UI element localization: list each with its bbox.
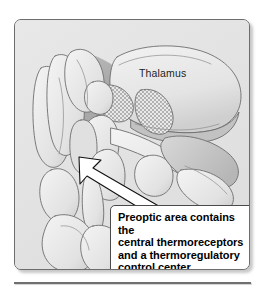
callout-text: Preoptic area contains the central therm… bbox=[118, 211, 250, 270]
figure-frame: Thalamus Preoptic area contains the cent… bbox=[14, 19, 250, 270]
callout-box: Preoptic area contains the central therm… bbox=[110, 205, 250, 270]
nucleus-upper bbox=[85, 81, 114, 114]
bottom-divider bbox=[14, 282, 251, 284]
thalamus-label: Thalamus bbox=[139, 67, 186, 79]
